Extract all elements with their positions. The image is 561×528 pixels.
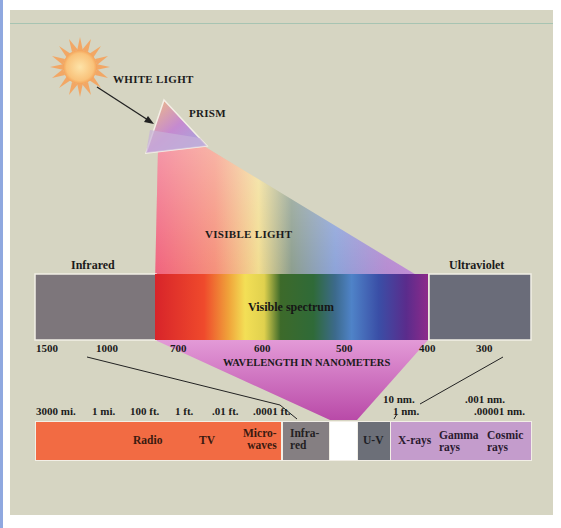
white-light-label: WHITE LIGHT — [113, 73, 194, 85]
tick-10nm: 10 nm. — [383, 393, 415, 405]
band-cosmic: Cosmic rays — [487, 429, 523, 453]
sun-icon — [50, 37, 110, 97]
tick-600: 600 — [254, 342, 271, 354]
band-microwaves-line2: waves — [243, 439, 277, 451]
band-gamma-line2: rays — [439, 441, 479, 453]
ultraviolet-block — [429, 274, 531, 340]
light-arrow — [97, 87, 148, 120]
tick-1nm: 1 nm. — [393, 405, 419, 417]
band-infrared: Infra- red — [290, 427, 319, 451]
band-gamma: Gamma rays — [439, 429, 479, 453]
band-cosmic-line2: rays — [487, 441, 523, 453]
band-cosmic-line1: Cosmic — [487, 429, 523, 441]
tick-100ft: 100 ft. — [130, 405, 159, 417]
band-infrared-line1: Infra- — [290, 427, 319, 439]
arrowhead-icon — [144, 116, 154, 124]
tick-001nm: .001 nm. — [465, 393, 505, 405]
tick-300: 300 — [476, 342, 493, 354]
band-tv: TV — [199, 434, 215, 446]
prism-label: PRISM — [189, 107, 226, 119]
tick-500: 500 — [336, 342, 353, 354]
infrared-label: Infrared — [71, 258, 115, 273]
band-microwaves: Micro- waves — [243, 427, 277, 451]
tick-400: 400 — [419, 342, 436, 354]
visible-light-label: VISIBLE LIGHT — [205, 228, 292, 240]
band-radio: Radio — [133, 434, 162, 446]
tick-1mi: 1 mi. — [92, 405, 115, 417]
band-xrays: X-rays — [398, 434, 431, 446]
ultraviolet-label: Ultraviolet — [449, 258, 504, 273]
tick-1ft: 1 ft. — [175, 405, 193, 417]
band-microwaves-line1: Micro- — [243, 427, 277, 439]
band-uv: U-V — [363, 434, 383, 446]
tick-01ft: .01 ft. — [212, 405, 239, 417]
tick-3000mi: 3000 mi. — [36, 405, 76, 417]
tick-700: 700 — [170, 342, 187, 354]
wavelength-funnel — [155, 340, 428, 420]
band-gamma-line1: Gamma — [439, 429, 479, 441]
band-infrared-line2: red — [290, 439, 319, 451]
visible-spectrum-label: Visible spectrum — [248, 300, 334, 315]
tick-0001ft: .0001 ft. — [253, 405, 291, 417]
infrared-block — [35, 274, 156, 340]
tick-1500: 1500 — [36, 342, 58, 354]
tick-00001nm: .00001 nm. — [474, 405, 525, 417]
wavelength-label: WAVELENGTH IN NANOMETERS — [223, 357, 390, 368]
visible-gap — [330, 422, 357, 460]
tick-1000: 1000 — [96, 342, 118, 354]
